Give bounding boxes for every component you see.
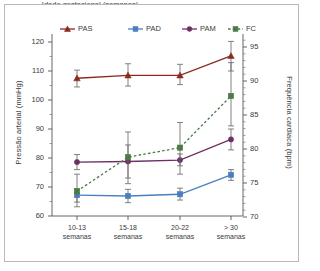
datapoint-PAS-3[interactable]	[228, 53, 234, 59]
datapoint-FC-0[interactable]	[74, 189, 79, 194]
series-FC	[74, 63, 234, 207]
y-tick-label-left-120: 120	[20, 37, 44, 46]
legend-label-PAM[interactable]: PAM	[200, 24, 216, 33]
x-tick-label-line1-2: 20-22	[152, 223, 208, 232]
y-tick-label-right-95: 95	[250, 42, 274, 51]
line-PAS	[77, 56, 231, 78]
y-tick-label-right-70: 70	[250, 212, 274, 221]
y-tick-label-right-80: 80	[250, 144, 274, 153]
line-PAM	[77, 139, 231, 162]
datapoint-PAM-0[interactable]	[74, 159, 79, 164]
legend-item-PAD[interactable]	[128, 27, 143, 32]
datapoint-PAD-2[interactable]	[177, 192, 182, 197]
x-tick-label-line2-1: semanas	[100, 232, 156, 241]
series-PAD	[74, 170, 234, 203]
y-tick-label-left-70: 70	[20, 182, 44, 191]
datapoint-PAD-3[interactable]	[228, 172, 233, 177]
legend-label-PAS[interactable]: PAS	[78, 24, 92, 33]
x-tick-label-line2-3: semanas	[203, 232, 259, 241]
x-tick-label-line2-2: semanas	[152, 232, 208, 241]
legend-item-PAM[interactable]	[182, 27, 197, 32]
x-tick-label-0: 10-13semanas	[49, 223, 105, 241]
legend-item-PAS[interactable]	[60, 26, 75, 31]
datapoint-FC-2[interactable]	[177, 145, 182, 150]
line-PAD	[77, 175, 231, 196]
datapoint-PAD-1[interactable]	[125, 193, 130, 198]
x-tick-label-line1-0: 10-13	[49, 223, 105, 232]
line-FC	[77, 96, 231, 191]
x-tick-label-1: 15-18semanas	[100, 223, 156, 241]
legend-label-PAD[interactable]: PAD	[146, 24, 161, 33]
x-tick-label-line2-0: semanas	[49, 232, 105, 241]
legend-marker-FC	[233, 27, 238, 32]
series-PAS	[74, 41, 234, 87]
legend-item-FC[interactable]	[228, 27, 243, 32]
datapoint-PAM-3[interactable]	[228, 137, 233, 142]
y-tick-label-left-80: 80	[20, 153, 44, 162]
x-tick-label-line1-3: > 30	[203, 223, 259, 232]
datapoint-FC-3[interactable]	[228, 93, 233, 98]
y-tick-label-left-100: 100	[20, 95, 44, 104]
y-tick-label-left-110: 110	[20, 66, 44, 75]
y-tick-label-right-90: 90	[250, 76, 274, 85]
legend-marker-PAD	[133, 27, 138, 32]
y-tick-label-right-85: 85	[250, 110, 274, 119]
x-tick-label-2: 20-22semanas	[152, 223, 208, 241]
x-tick-label-3: > 30semanas	[203, 223, 259, 241]
y-axis-right-title: Frequência cardíaca (bpm)	[285, 53, 294, 193]
legend-label-FC[interactable]: FC	[246, 24, 256, 33]
y-tick-label-left-90: 90	[20, 124, 44, 133]
series-PAM	[74, 129, 234, 178]
y-tick-label-left-60: 60	[20, 211, 44, 220]
legend-marker-PAM	[187, 27, 192, 32]
y-tick-label-right-75: 75	[250, 178, 274, 187]
datapoint-FC-1[interactable]	[125, 155, 130, 160]
x-tick-label-line1-1: 15-18	[100, 223, 156, 232]
